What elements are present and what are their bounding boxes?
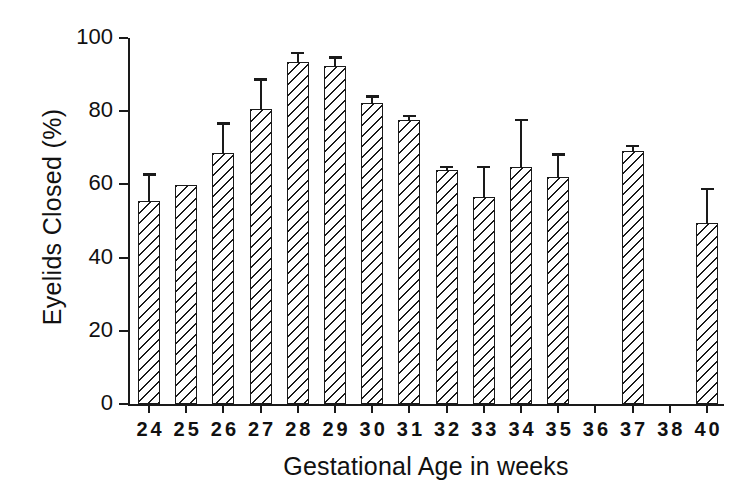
x-axis-tick [334,404,336,413]
x-axis-tick [148,404,150,413]
x-axis-line [128,404,724,406]
error-bar-cap [291,52,304,54]
x-axis-tick-label: 40 [684,418,730,440]
error-bar-cap [515,119,528,121]
x-axis-tick [222,404,224,413]
error-bar-cap [440,166,453,168]
x-axis-tick [483,404,485,413]
y-axis-tick [119,37,128,39]
y-axis-tick-label: 0 [57,392,113,414]
error-bar-cap [143,173,156,175]
bar [175,185,197,404]
bar [324,66,346,404]
x-axis-tick [371,404,373,413]
y-axis-tick [119,403,128,405]
error-bar-cap [366,95,379,97]
bar [287,62,309,404]
bar [398,120,420,404]
error-bar-stem [148,173,150,200]
bar [361,103,383,404]
error-bar-cap [552,153,565,155]
error-bar-stem [557,153,559,177]
bar [473,197,495,404]
plot-area [128,38,722,404]
x-axis-tick [260,404,262,413]
bar [510,167,532,404]
error-bar-stem [483,166,485,197]
bar [250,109,272,404]
error-bar-stem [260,78,262,109]
error-bar-cap [217,122,230,124]
chart-figure: Eyelids Closed (%) 020406080100 24252627… [0,0,754,499]
bar [696,223,718,404]
x-axis-title: Gestational Age in weeks [128,452,724,481]
x-axis-tick [669,404,671,413]
error-bar-cap [626,145,639,147]
error-bar-stem [520,119,522,167]
bar [212,153,234,404]
y-axis-tick-label: 60 [57,172,113,194]
error-bar-cap [329,56,342,58]
bar [547,177,569,404]
x-axis-tick [594,404,596,413]
y-axis-tick-label: 80 [57,99,113,121]
x-axis-tick [408,404,410,413]
x-axis-tick [557,404,559,413]
bar [622,151,644,404]
x-axis-tick [297,404,299,413]
x-axis-tick [706,404,708,413]
error-bar-stem [222,122,224,153]
y-axis-tick [119,257,128,259]
y-axis-tick [119,183,128,185]
y-axis-tick-label: 20 [57,319,113,341]
error-bar-stem [706,188,708,223]
x-axis-tick [520,404,522,413]
y-axis-tick [119,330,128,332]
error-bar-cap [403,115,416,117]
error-bar-cap [254,78,267,80]
error-bar-cap [701,188,714,190]
bar [138,201,160,404]
x-axis-tick [632,404,634,413]
x-axis-tick [185,404,187,413]
y-axis-tick-label: 40 [57,246,113,268]
bar [436,170,458,404]
error-bar-cap [477,166,490,168]
y-axis-tick-label: 100 [57,26,113,48]
x-axis-tick [446,404,448,413]
y-axis-tick [119,110,128,112]
